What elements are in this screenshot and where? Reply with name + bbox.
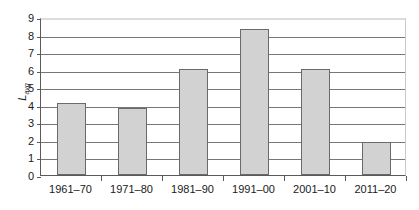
y-tick-label-0: 0 <box>8 171 34 181</box>
y-tick-label-7: 7 <box>8 48 34 58</box>
plot-area <box>40 18 406 176</box>
y-tick-label-8: 8 <box>8 31 34 41</box>
bar <box>301 69 330 175</box>
x-tick-mark <box>345 176 346 181</box>
x-tick-label: 1981–90 <box>162 183 223 196</box>
y-tick-label-3: 3 <box>8 118 34 128</box>
x-tick-label: 2001–10 <box>284 183 345 196</box>
x-tick-mark <box>162 176 163 181</box>
x-tick-mark <box>406 176 407 181</box>
x-tick-mark <box>101 176 102 181</box>
y-tick-label-1: 1 <box>8 153 34 163</box>
y-tick-label-6: 6 <box>8 66 34 76</box>
bar-chart-figure: Lavg 0123456789 1961–701971–801981–90199… <box>0 0 419 210</box>
bar <box>362 142 391 175</box>
y-tick-label-4: 4 <box>8 101 34 111</box>
y-tick-label-5: 5 <box>8 83 34 93</box>
bar <box>240 29 269 175</box>
x-tick-label: 1991–00 <box>223 183 284 196</box>
y-tick-mark-0 <box>37 177 41 178</box>
bar-series <box>41 19 405 175</box>
bar <box>57 103 86 175</box>
bar <box>179 69 208 175</box>
bar <box>118 108 147 175</box>
x-tick-mark <box>284 176 285 181</box>
x-tick-mark <box>223 176 224 181</box>
x-tick-label: 1971–80 <box>101 183 162 196</box>
y-tick-label-2: 2 <box>8 136 34 146</box>
y-tick-label-9: 9 <box>8 13 34 23</box>
x-tick-label: 1961–70 <box>40 183 101 196</box>
x-tick-label: 2011–20 <box>345 183 406 196</box>
